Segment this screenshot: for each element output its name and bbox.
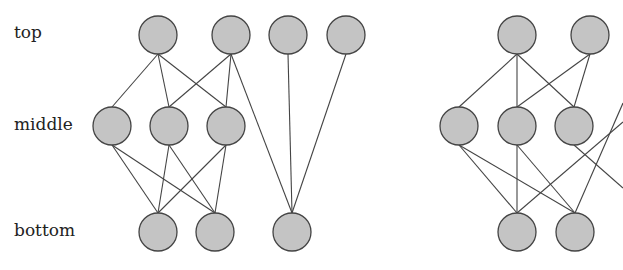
node-bottom xyxy=(498,213,536,251)
node-top xyxy=(498,16,536,54)
node-middle xyxy=(150,107,188,145)
node-middle xyxy=(555,107,593,145)
node-top xyxy=(327,16,365,54)
edge xyxy=(288,54,292,213)
edge xyxy=(226,54,231,107)
edge xyxy=(112,145,158,213)
node-middle xyxy=(440,107,478,145)
node-top xyxy=(139,16,177,54)
layered-graph-diagram xyxy=(0,0,623,270)
edge xyxy=(215,145,226,213)
node-bottom xyxy=(273,213,311,251)
node-middle xyxy=(498,107,536,145)
node-top xyxy=(269,16,307,54)
node-bottom xyxy=(556,213,594,251)
edge xyxy=(158,145,226,213)
edge xyxy=(517,54,574,107)
node-middle xyxy=(207,107,245,145)
edge xyxy=(292,54,346,213)
edge xyxy=(158,54,226,107)
node-top xyxy=(571,16,609,54)
node-middle xyxy=(93,107,131,145)
node-top xyxy=(212,16,250,54)
node-bottom xyxy=(196,213,234,251)
edge xyxy=(169,54,231,107)
edge xyxy=(517,54,590,107)
edge xyxy=(112,54,158,107)
edge xyxy=(574,54,590,107)
edge xyxy=(517,145,575,213)
node-bottom xyxy=(139,213,177,251)
edge xyxy=(459,145,517,213)
edge xyxy=(158,145,169,213)
edge xyxy=(574,145,623,188)
edge xyxy=(459,54,517,107)
